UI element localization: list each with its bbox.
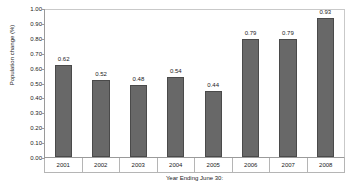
x-tick-label: 2006 [233,158,271,172]
y-tick-mark [42,54,45,55]
bar-slot: 0.48 [120,9,157,157]
y-tick-label: 0.00 [20,155,42,161]
x-tick-label: 2007 [270,158,308,172]
x-tick-label: 2004 [158,158,196,172]
y-tick-label: 0.60 [20,66,42,72]
bar-chart: Population change (%) 1.000.900.800.700.… [0,0,358,193]
x-tick-label: 2005 [195,158,233,172]
bar-slot: 0.62 [45,9,82,157]
bar-value-label: 0.79 [282,30,294,36]
bars-layer: 0.620.520.480.540.440.790.790.93 [45,9,344,157]
bar[interactable]: 0.44 [205,91,222,157]
y-tick-label: 0.40 [20,95,42,101]
y-tick-label: 0.20 [20,125,42,131]
x-axis-title: Year Ending June 30: [44,175,345,181]
y-tick-label: 0.80 [20,36,42,42]
y-tick-label: 0.90 [20,21,42,27]
bar-slot: 0.54 [157,9,194,157]
plot-area: 0.620.520.480.540.440.790.790.93 [44,9,345,158]
bar-slot: 0.79 [269,9,306,157]
y-tick-label: 0.10 [20,140,42,146]
y-tick-label: 1.00 [20,6,42,12]
bar[interactable]: 0.93 [317,18,334,157]
bar[interactable]: 0.54 [167,77,184,157]
y-tick-label: 0.50 [20,81,42,87]
y-tick-label: 0.30 [20,110,42,116]
bar-value-label: 0.93 [319,9,331,15]
y-tick-mark [42,113,45,114]
y-tick-mark [42,128,45,129]
bar-value-label: 0.52 [95,71,107,77]
bar-slot: 0.44 [195,9,232,157]
bar-value-label: 0.44 [207,82,219,88]
x-axis-category-band: 20012002200320042005200620072008 [44,158,345,173]
y-tick-mark [42,84,45,85]
bar[interactable]: 0.52 [92,80,109,157]
y-tick-mark [42,143,45,144]
x-tick-label: 2002 [83,158,121,172]
bar[interactable]: 0.48 [130,85,147,157]
bar-value-label: 0.79 [245,30,257,36]
bar-value-label: 0.54 [170,68,182,74]
y-tick-mark [42,69,45,70]
y-tick-mark [42,98,45,99]
x-tick-label: 2003 [120,158,158,172]
bar-slot: 0.52 [82,9,119,157]
bar-value-label: 0.62 [58,56,70,62]
y-axis-title: Population change (%) [9,0,15,111]
y-tick-mark [42,39,45,40]
y-tick-mark [42,24,45,25]
bar-slot: 0.79 [232,9,269,157]
x-tick-label: 2001 [45,158,83,172]
bar-value-label: 0.48 [133,76,145,82]
x-tick-label: 2008 [308,158,345,172]
y-tick-mark [42,9,45,10]
bar[interactable]: 0.79 [242,39,259,157]
bar-slot: 0.93 [307,9,344,157]
y-tick-label: 0.70 [20,51,42,57]
bar[interactable]: 0.62 [55,65,72,157]
bar[interactable]: 0.79 [279,39,296,157]
y-axis-tick-labels: 1.000.900.800.700.600.500.400.300.200.10… [20,9,42,158]
y-tick-mark [42,158,45,159]
